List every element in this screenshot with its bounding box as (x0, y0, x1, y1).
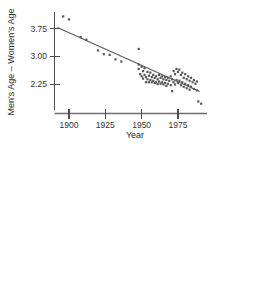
data-point (186, 87, 188, 89)
data-point (148, 75, 150, 77)
data-point (184, 73, 186, 75)
data-point (200, 103, 202, 105)
y-tick-label: 3.75 (30, 24, 47, 34)
data-point (146, 71, 148, 73)
data-point (157, 83, 159, 85)
data-point (180, 74, 182, 76)
data-point (162, 78, 164, 80)
data-point (141, 75, 143, 77)
data-point (175, 68, 177, 70)
data-point (174, 83, 176, 85)
data-point (191, 81, 193, 83)
data-point (181, 72, 183, 74)
data-point (68, 18, 70, 20)
data-point (161, 75, 163, 77)
data-point (174, 73, 176, 75)
data-point (157, 78, 159, 80)
data-point (138, 48, 140, 50)
data-point (97, 49, 99, 51)
data-point (164, 82, 166, 84)
scatter-panel-year-vs-agediff: 2.253.003.75 1900192519501975 Year Men's… (0, 0, 255, 150)
data-point (187, 75, 189, 77)
data-point (139, 73, 141, 75)
data-point (114, 58, 116, 60)
data-point (149, 79, 151, 81)
data-point (183, 86, 185, 88)
residual-panel: −0.20.00.20.4 2.42.83.23.6 Predicted Val… (0, 150, 255, 301)
data-point (193, 79, 195, 81)
data-point (165, 85, 167, 87)
data-point (188, 80, 190, 82)
data-point (165, 79, 167, 81)
data-point (171, 90, 173, 92)
data-point (142, 70, 144, 72)
regression-diagnostic-figure: 2.253.003.75 1900192519501975 Year Men's… (0, 0, 255, 301)
data-point (161, 81, 163, 83)
data-point (180, 84, 182, 86)
data-point (145, 76, 147, 78)
data-point (145, 81, 147, 83)
data-point (168, 80, 170, 82)
x-tick-label: 1950 (132, 120, 151, 130)
data-point (196, 80, 198, 82)
y-tick-label: 2.25 (30, 79, 47, 89)
data-point (148, 81, 150, 83)
data-point (177, 71, 179, 73)
data-point (183, 77, 185, 79)
data-point (155, 75, 157, 77)
data-point (120, 60, 122, 62)
top-data-points (62, 15, 202, 104)
top-y-tick-labels: 2.253.003.75 (30, 24, 47, 89)
data-point (170, 84, 172, 86)
top-x-axis-title: Year (126, 130, 144, 140)
y-tick-label: 3.00 (30, 51, 47, 61)
data-point (158, 80, 160, 82)
top-chart-svg: 2.253.003.75 1900192519501975 Year Men's… (0, 0, 255, 150)
data-point (170, 75, 172, 77)
data-point (138, 68, 140, 70)
data-point (152, 80, 154, 82)
data-point (167, 83, 169, 85)
data-point (152, 74, 154, 76)
x-tick-label: 1925 (96, 120, 115, 130)
data-point (197, 100, 199, 102)
data-point (178, 69, 180, 71)
data-point (186, 78, 188, 80)
bottom-chart-svg: −0.20.00.20.4 2.42.83.23.6 Predicted Val… (0, 150, 255, 301)
data-point (103, 53, 105, 55)
data-point (151, 76, 153, 78)
data-point (149, 72, 151, 74)
data-point (142, 77, 144, 79)
data-point (143, 74, 145, 76)
data-point (194, 83, 196, 85)
x-tick-label: 1900 (60, 120, 79, 130)
x-tick-label: 1975 (168, 120, 187, 130)
top-trendline (57, 28, 199, 92)
data-point (109, 54, 111, 56)
top-x-tick-labels: 1900192519501975 (60, 120, 188, 130)
data-point (173, 70, 175, 72)
data-point (62, 15, 64, 17)
data-point (146, 78, 148, 80)
data-point (190, 77, 192, 79)
data-point (173, 81, 175, 83)
top-y-axis-title: Men's Age – Women's Age (6, 9, 16, 116)
data-point (188, 89, 190, 91)
